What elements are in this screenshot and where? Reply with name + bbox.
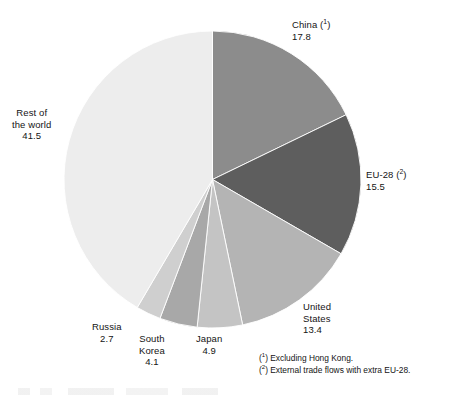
slice-value-japan: 4.9: [196, 345, 222, 357]
slice-label-russia: Russia 2.7: [92, 321, 122, 344]
slice-value-china: 17.8: [292, 31, 331, 43]
slice-label-china-name: China (1): [292, 19, 331, 31]
slice-value-eu28: 15.5: [366, 181, 407, 193]
slice-value-rest-of-the-world: 41.5: [12, 130, 51, 142]
slice-label-rest-of-the-world: Rest of the world 41.5: [12, 107, 51, 142]
slice-label-japan: Japan 4.9: [196, 333, 222, 356]
slice-label-south-korea: South Korea 4.1: [139, 333, 165, 368]
footnote-line-2: (2) External trade flows with extra EU-2…: [259, 365, 410, 377]
pie-slice-group: [64, 31, 361, 328]
slice-label-china: China (1) 17.8: [292, 19, 331, 42]
slice-label-eu28-name: EU-28 (2): [366, 169, 407, 181]
slice-value-russia: 2.7: [92, 333, 122, 345]
slice-value-united-states: 13.4: [303, 324, 331, 336]
slice-value-south-korea: 4.1: [139, 356, 165, 368]
slice-label-eu28: EU-28 (2) 15.5: [366, 169, 407, 192]
footnote-line-1: (1) Excluding Hong Kong.: [259, 353, 410, 365]
pie-chart-svg: [0, 0, 450, 398]
pie-chart: China (1) 17.8 EU-28 (2) 15.5 United Sta…: [0, 0, 450, 398]
slice-label-united-states: United States 13.4: [303, 301, 331, 336]
chart-footnotes: (1) Excluding Hong Kong. (2) External tr…: [259, 353, 410, 376]
